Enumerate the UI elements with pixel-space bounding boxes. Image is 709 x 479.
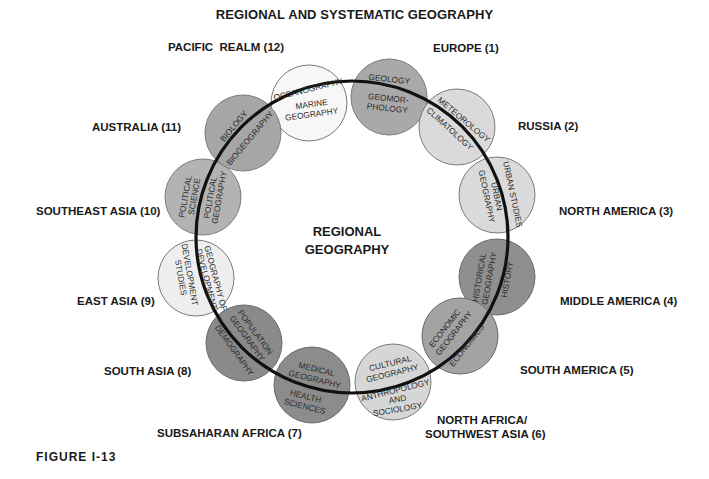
region-label-north-africa: NORTH AFRICA/ SOUTHWEST ASIA (6)	[425, 413, 546, 441]
center-label-line2: GEOGRAPHY	[305, 242, 390, 257]
region-label-middle-america: MIDDLE AMERICA (4)	[560, 295, 677, 307]
region-label-north-africa-line2: SOUTHWEST ASIA (6)	[425, 427, 546, 441]
region-label-pacific-realm: PACIFIC REALM (12)	[168, 41, 284, 53]
region-label-south-asia: SOUTH ASIA (8)	[104, 365, 191, 377]
region-label-east-asia: EAST ASIA (9)	[77, 295, 155, 307]
region-label-north-africa-line1: NORTH AFRICA/	[425, 413, 546, 427]
region-label-south-america: SOUTH AMERICA (5)	[520, 364, 634, 376]
region-label-russia: RUSSIA (2)	[518, 120, 578, 132]
circle-political	[165, 159, 241, 235]
center-label-line1: REGIONAL	[313, 224, 382, 239]
region-label-australia: AUSTRALIA (11)	[92, 121, 181, 133]
figure-label: FIGURE I-13	[36, 450, 116, 464]
region-label-north-america: NORTH AMERICA (3)	[559, 205, 673, 217]
region-label-subsaharan-africa: SUBSAHARAN AFRICA (7)	[157, 427, 302, 439]
region-label-europe: EUROPE (1)	[433, 42, 499, 54]
region-label-southeast-asia: SOUTHEAST ASIA (10)	[36, 205, 160, 217]
geography-ring-diagram: OCEANOGRAPHY MARINE GEOGRAPHY GEOLOGY GE…	[0, 0, 709, 479]
